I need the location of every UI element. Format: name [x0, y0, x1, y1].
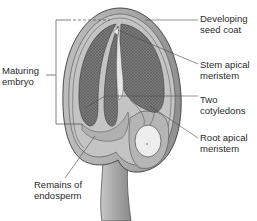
label-maturing-embryo: Maturing embryo — [2, 65, 39, 87]
seed-diagram: Developing seed coat Stem apical meriste… — [0, 0, 257, 221]
label-two-cotyledons: Two cotyledons — [200, 94, 245, 116]
label-root-apical-meristem: Root apical meristem — [200, 132, 248, 154]
label-stem-apical-meristem: Stem apical meristem — [200, 59, 250, 81]
label-remains-of-endosperm: Remains of endosperm — [34, 179, 82, 201]
label-developing-seed-coat: Developing seed coat — [200, 13, 248, 35]
root-apical-meristem-region — [135, 125, 161, 157]
